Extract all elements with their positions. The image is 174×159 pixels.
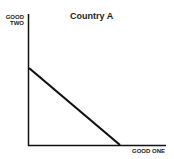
chart-plot xyxy=(0,0,174,159)
ppf-line xyxy=(29,68,120,145)
